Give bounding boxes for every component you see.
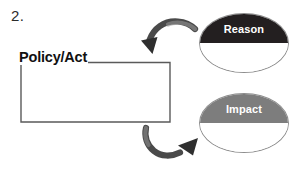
reason-oval-header: Reason (200, 14, 288, 43)
impact-oval-answer-area[interactable] (200, 123, 288, 152)
reason-oval[interactable]: Reason (199, 13, 289, 73)
policy-act-label: Policy/Act (19, 50, 88, 65)
impact-oval-label: Impact (226, 104, 262, 115)
worksheet-diagram: 2. Policy/Act Reason Impact (0, 0, 300, 175)
answer-box-outline (21, 58, 170, 122)
curved-arrow-to-impact (145, 128, 198, 156)
impact-oval-header: Impact (200, 94, 288, 123)
reason-oval-label: Reason (224, 24, 264, 35)
impact-oval[interactable]: Impact (199, 93, 289, 153)
reason-oval-answer-area[interactable] (200, 43, 288, 72)
curved-arrow-to-reason (141, 21, 195, 54)
policy-act-answer-box[interactable] (21, 58, 170, 122)
